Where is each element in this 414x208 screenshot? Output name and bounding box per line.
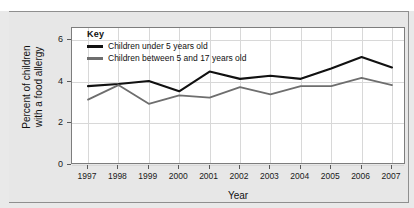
x-tick-label: 2000 (169, 171, 188, 181)
x-tick-mark (239, 165, 240, 169)
y-tick-mark (67, 81, 71, 82)
y-tick-mark (67, 164, 71, 165)
x-tick-mark (209, 165, 210, 169)
legend-label-5-to-17: Children between 5 and 17 years old (108, 53, 246, 64)
x-tick-label: 2003 (260, 171, 279, 181)
y-tick-label: 4 (58, 76, 63, 86)
y-tick-mark (67, 122, 71, 123)
x-tick-mark (330, 165, 331, 169)
legend-title: Key (87, 29, 246, 39)
x-tick-mark (361, 165, 362, 169)
y-tick-label: 2 (58, 117, 63, 127)
x-tick-mark (178, 165, 179, 169)
x-tick-mark (391, 165, 392, 169)
y-tick-label: 0 (58, 159, 63, 169)
x-tick-mark (87, 165, 88, 169)
legend-item-5-to-17: Children between 5 and 17 years old (87, 53, 246, 64)
chart-legend: Key Children under 5 years old Children … (87, 29, 246, 65)
legend-label-under-5: Children under 5 years old (108, 41, 208, 52)
x-tick-label: 2007 (382, 171, 401, 181)
legend-swatch-under-5 (87, 45, 103, 48)
x-tick-mark (117, 165, 118, 169)
y-tick-label: 6 (58, 34, 63, 44)
x-tick-label: 1999 (138, 171, 157, 181)
y-tick-mark (67, 39, 71, 40)
x-tick-mark (300, 165, 301, 169)
x-tick-mark (148, 165, 149, 169)
x-tick-label: 2001 (199, 171, 218, 181)
legend-swatch-5-to-17 (87, 57, 103, 60)
gridline-horizontal (72, 165, 404, 166)
chart-page: Percent of children with a food allergy … (0, 0, 414, 208)
x-tick-mark (269, 165, 270, 169)
x-tick-label: 2002 (230, 171, 249, 181)
x-tick-label: 1998 (108, 171, 127, 181)
x-tick-label: 2005 (321, 171, 340, 181)
x-axis-label: Year (71, 190, 405, 201)
figure-container: Percent of children with a food allergy … (9, 11, 409, 203)
x-tick-label: 2006 (351, 171, 370, 181)
legend-item-under-5: Children under 5 years old (87, 41, 246, 52)
top-edge-artifact (0, 0, 414, 11)
y-axis-label: Percent of children with a food allergy (21, 32, 45, 142)
x-tick-label: 2004 (290, 171, 309, 181)
x-tick-label: 1997 (78, 171, 97, 181)
